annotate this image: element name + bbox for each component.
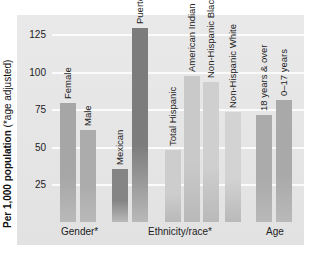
y-tick-100: 100 xyxy=(24,68,46,78)
bar-label: Non-Hispanic White xyxy=(227,24,238,108)
group-label-age: Age xyxy=(266,226,284,237)
y-tick-25: 25 xyxy=(24,180,46,190)
bar-label: American Indian xyxy=(186,3,197,72)
bar-total-hispanic xyxy=(165,150,181,222)
bar-label: Male xyxy=(82,105,93,126)
bar-18-years-over xyxy=(256,115,272,222)
gridline-125 xyxy=(52,34,304,36)
bar-non-hispanic-white xyxy=(225,112,241,222)
bar-label: 0–17 years xyxy=(278,49,289,96)
y-tick-75: 75 xyxy=(24,105,46,115)
bar-label: 18 years & over xyxy=(258,44,269,111)
y-axis-label-note: (*age adjusted) xyxy=(2,60,13,128)
bar-label: Non-Hispanic Black xyxy=(205,0,216,78)
bar-female xyxy=(60,103,76,222)
group-label-ethnicity: Ethnicity/race* xyxy=(148,226,212,237)
y-tick-50: 50 xyxy=(24,143,46,153)
y-tick-125: 125 xyxy=(24,30,46,40)
group-label-gender: Gender* xyxy=(61,226,98,237)
y-axis-label: Per 1,000 population (*age adjusted) xyxy=(2,60,13,228)
bar-mexican xyxy=(112,169,128,222)
bar-label: Total Hispanic xyxy=(167,87,178,146)
bar-american-indian xyxy=(184,76,200,222)
bar-puerto-rican xyxy=(132,28,148,222)
bar-0-17-years xyxy=(276,100,292,222)
y-axis-label-main: Per 1,000 population xyxy=(2,130,13,228)
bar-non-hispanic-black xyxy=(203,82,219,222)
bar-label: Mexican xyxy=(114,130,125,165)
bar-male xyxy=(80,130,96,222)
bar-label: Puerto Rican xyxy=(134,0,145,24)
bar-label: Female xyxy=(62,67,73,99)
